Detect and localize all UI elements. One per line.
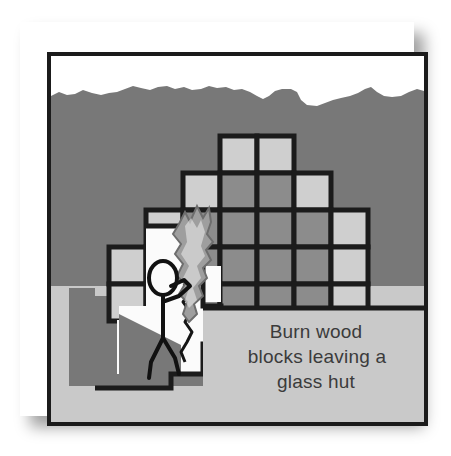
scene: Burn wood blocks leaving a glass hut (51, 56, 424, 422)
picture-frame: Burn wood blocks leaving a glass hut (47, 52, 428, 426)
caption-line-1: Burn wood (231, 319, 401, 344)
illustration-card: Burn wood blocks leaving a glass hut (20, 22, 414, 416)
caption-line-2: blocks leaving a (219, 344, 415, 369)
screenshot-root: Burn wood blocks leaving a glass hut (0, 0, 451, 456)
caption-line-3: glass hut (231, 369, 401, 394)
